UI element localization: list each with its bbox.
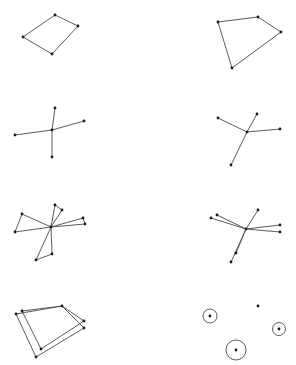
graph-edge — [246, 229, 280, 232]
graph-diagram-canvas — [0, 0, 296, 365]
graph-edge — [218, 17, 258, 22]
graph-edge — [258, 17, 281, 32]
graph-node — [280, 31, 283, 34]
graph-edge — [52, 108, 55, 130]
graph-node — [278, 328, 281, 331]
graph-node — [279, 224, 282, 227]
graph-edge — [62, 306, 84, 328]
graph-edge — [15, 227, 51, 232]
graph-edge — [246, 225, 280, 229]
graph-node — [21, 213, 24, 216]
graph-node — [35, 356, 38, 359]
graph-edge — [217, 215, 246, 229]
graph-node — [54, 14, 57, 17]
graph-pinwheel-left — [14, 204, 87, 262]
graph-edge — [211, 218, 246, 229]
graph-node — [279, 231, 282, 234]
graph-star-left — [14, 107, 86, 159]
graph-quad-left — [22, 14, 80, 56]
graph-edge — [218, 118, 247, 132]
graph-edge — [246, 210, 258, 229]
graph-node — [14, 231, 17, 234]
graph-node — [257, 209, 260, 212]
graph-edge — [15, 214, 22, 232]
graph-edge — [218, 22, 232, 68]
graph-quad-right — [217, 16, 283, 70]
graph-node — [83, 120, 86, 123]
graph-node — [230, 261, 233, 264]
graph-node — [84, 223, 87, 226]
graph-edge — [52, 121, 84, 130]
graph-star-right — [217, 113, 282, 167]
graph-node — [15, 313, 18, 316]
graph-node — [14, 134, 17, 137]
graph-edge — [23, 15, 55, 37]
graph-edge — [23, 37, 52, 54]
graph-node — [83, 320, 86, 323]
graph-edge — [22, 311, 41, 349]
graph-node — [61, 305, 64, 308]
graph-node — [256, 113, 259, 116]
graph-edge — [232, 32, 281, 68]
graph-node — [21, 310, 24, 313]
graph-node — [51, 129, 54, 132]
graph-edge — [36, 328, 84, 357]
graph-double-quad — [15, 305, 86, 359]
graph-edge — [55, 15, 78, 26]
graph-edge — [16, 314, 36, 357]
graph-node — [217, 21, 220, 24]
graph-node — [61, 209, 64, 212]
graph-edge — [52, 26, 78, 54]
graph-node — [246, 131, 249, 134]
graph-node — [230, 164, 233, 167]
graph-node — [22, 36, 25, 39]
graph-edge — [41, 321, 84, 349]
graph-node — [245, 228, 248, 231]
graph-node — [257, 305, 260, 308]
graph-edge — [247, 129, 280, 132]
graph-edge — [231, 132, 247, 165]
graph-node — [209, 315, 212, 318]
graph-node — [231, 67, 234, 70]
graph-node — [77, 25, 80, 28]
graph-edge — [231, 229, 246, 262]
graph-node — [51, 253, 54, 256]
graph-node — [235, 349, 238, 352]
graph-node — [54, 107, 57, 110]
graph-edge — [247, 114, 257, 132]
graph-node — [40, 348, 43, 351]
graph-node — [217, 117, 220, 120]
graph-edge — [22, 214, 51, 227]
graph-circles — [203, 305, 286, 360]
graph-node — [51, 53, 54, 56]
graph-node — [257, 16, 260, 19]
graph-node — [235, 252, 238, 255]
graph-node — [50, 226, 53, 229]
graph-node — [82, 217, 85, 220]
graph-edge — [51, 227, 52, 254]
graph-node — [216, 214, 219, 217]
graph-edge — [15, 130, 52, 135]
graph-node — [279, 128, 282, 131]
graph-node — [51, 156, 54, 159]
graph-node — [35, 259, 38, 262]
graph-edge — [62, 306, 84, 321]
graph-pinwheel-right — [210, 209, 282, 264]
graph-node — [210, 217, 213, 220]
graph-node — [54, 204, 57, 207]
graph-node — [83, 327, 86, 330]
